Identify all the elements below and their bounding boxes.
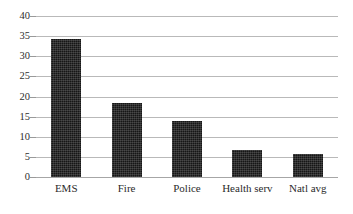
x-axis-label: Natl avg xyxy=(278,181,338,195)
bar-slot xyxy=(278,16,338,177)
y-axis-label: 30 xyxy=(4,51,30,62)
bar-chart: 0510152025303540 EMSFirePoliceHealth ser… xyxy=(0,0,353,214)
y-axis: 0510152025303540 xyxy=(0,16,30,177)
bar[interactable] xyxy=(232,150,262,177)
y-axis-label: 5 xyxy=(4,152,30,163)
bar[interactable] xyxy=(112,103,142,177)
bar-slot xyxy=(157,16,217,177)
bar-slot xyxy=(36,16,96,177)
x-axis-label: Police xyxy=(157,181,217,195)
plot-area xyxy=(36,16,338,177)
gridline xyxy=(36,177,338,178)
x-axis-label: EMS xyxy=(36,181,96,195)
bar-slot xyxy=(96,16,156,177)
y-axis-label: 35 xyxy=(4,31,30,42)
x-axis-label: Fire xyxy=(96,181,156,195)
y-axis-tick xyxy=(30,177,36,178)
y-axis-label: 0 xyxy=(4,172,30,183)
y-axis-label: 15 xyxy=(4,112,30,123)
y-axis-label: 25 xyxy=(4,71,30,82)
bar[interactable] xyxy=(51,39,81,177)
y-axis-label: 10 xyxy=(4,132,30,143)
bar[interactable] xyxy=(172,121,202,177)
x-axis-label: Health serv xyxy=(217,181,277,195)
bar[interactable] xyxy=(293,154,323,177)
y-axis-label: 40 xyxy=(4,11,30,22)
x-axis: EMSFirePoliceHealth servNatl avg xyxy=(36,181,338,201)
bar-slot xyxy=(217,16,277,177)
y-axis-label: 20 xyxy=(4,92,30,103)
